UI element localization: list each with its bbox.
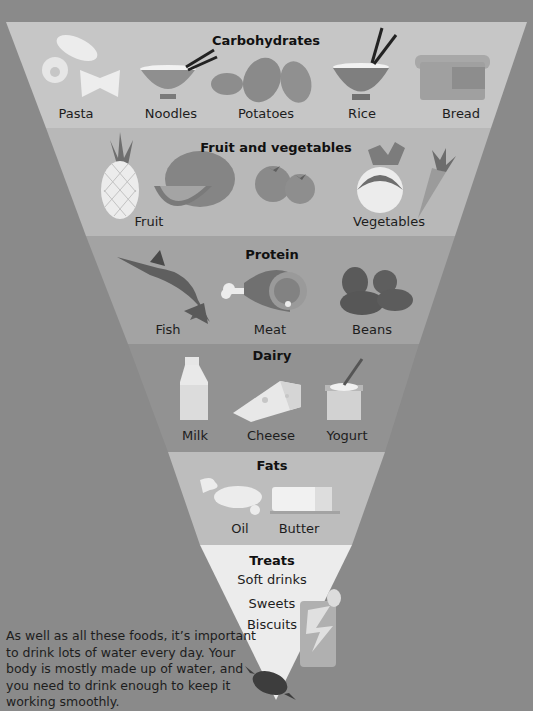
soft-drinks-label: Soft drinks: [237, 572, 307, 587]
water-note: As well as all these foods, it’s importa…: [6, 628, 256, 711]
pasta-label: Pasta: [58, 106, 93, 121]
fruit-label: Fruit: [135, 214, 164, 229]
carbohydrates-title: Carbohydrates: [212, 33, 320, 48]
oil-label: Oil: [231, 521, 248, 536]
rice-label: Rice: [348, 106, 376, 121]
fish-label: Fish: [155, 322, 180, 337]
potatoes-label: Potatoes: [238, 106, 294, 121]
cheese-label: Cheese: [247, 428, 295, 443]
bread-label: Bread: [442, 106, 480, 121]
milk-label: Milk: [182, 428, 208, 443]
meat-label: Meat: [254, 322, 286, 337]
bread-icon: [415, 55, 490, 100]
treats-title: Treats: [249, 553, 294, 568]
noodles-label: Noodles: [145, 106, 197, 121]
protein-title: Protein: [245, 247, 299, 262]
dairy-title: Dairy: [253, 348, 292, 363]
yogurt-label: Yogurt: [326, 428, 367, 443]
fats-title: Fats: [257, 458, 288, 473]
butter-label: Butter: [279, 521, 320, 536]
sweets-label: Sweets: [249, 596, 296, 611]
butter-icon: [270, 487, 340, 514]
beans-label: Beans: [352, 322, 392, 337]
fruit-vegetables-title: Fruit and vegetables: [200, 140, 352, 155]
vegetables-label: Vegetables: [353, 214, 425, 229]
